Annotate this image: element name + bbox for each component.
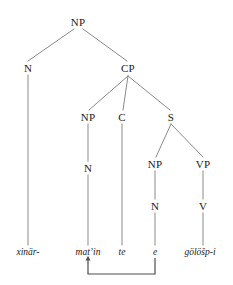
node-label-np-3: NP (148, 158, 162, 170)
tree-edge-cp-to-c (123, 76, 128, 110)
tree-edge-cp-to-np-2 (89, 76, 128, 110)
edge-layer (28, 29, 203, 245)
node-label-n-3: N (151, 200, 159, 212)
node-label-cp: CP (121, 62, 135, 74)
node-label-c: C (118, 111, 126, 123)
terminal-label-e: e (153, 247, 157, 257)
terminal-label-te: te (119, 247, 126, 257)
movement-arrow-layer (86, 256, 155, 274)
tree-edge-np-root-to-n-1 (28, 29, 74, 61)
node-label-n-1: N (24, 62, 32, 74)
movement-arrow-path (88, 258, 155, 274)
node-label-v: V (199, 200, 207, 212)
tree-edge-cp-to-s (128, 76, 170, 110)
terminal-label-matin: mat’in (76, 247, 101, 257)
tree-edge-np-root-to-cp (83, 29, 127, 61)
tree-lines (0, 0, 233, 285)
terminal-label-golosp: gölöšp-i (184, 247, 215, 257)
syntax-tree-figure: NPNCPNPCSNNPVPNV xinär-mat’inteegölöšp-i (0, 0, 233, 285)
terminal-label-xinar: xinär- (16, 247, 39, 257)
node-label-np-root: NP (71, 16, 85, 28)
node-label-s: S (168, 111, 174, 123)
node-label-np-2: NP (81, 111, 95, 123)
node-label-vp: VP (196, 158, 210, 170)
tree-edge-s-to-vp (171, 124, 203, 157)
node-label-n-2: N (84, 162, 92, 174)
tree-edge-s-to-np-3 (156, 124, 171, 157)
